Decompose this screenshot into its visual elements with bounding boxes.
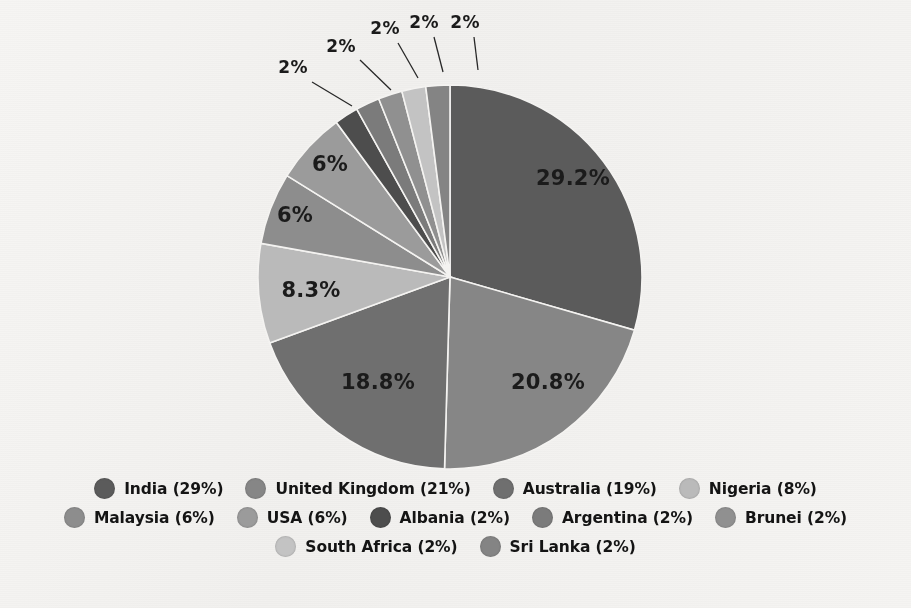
legend-swatch-icon [64,507,85,528]
legend-item: India (29%) [94,478,223,499]
legend-item: Nigeria (8%) [679,478,817,499]
legend-item-label: USA (6%) [267,509,348,527]
slice-label: 2% [450,12,479,32]
legend-item-label: Australia (19%) [523,480,657,498]
legend-swatch-icon [94,478,115,499]
legend-item-label: Argentina (2%) [562,509,693,527]
legend-swatch-icon [275,536,296,557]
legend-row: India (29%)United Kingdom (21%)Australia… [0,478,911,499]
legend-item-label: South Africa (2%) [305,538,457,556]
legend-swatch-icon [532,507,553,528]
slice-label: 2% [326,36,355,56]
legend-item: Australia (19%) [493,478,657,499]
legend-item: Albania (2%) [370,507,510,528]
legend-swatch-icon [679,478,700,499]
slice-label: 2% [278,57,307,77]
legend-swatch-icon [480,536,501,557]
slice-label: 18.8% [341,370,415,394]
legend-row: Malaysia (6%)USA (6%)Albania (2%)Argenti… [0,507,911,528]
slice-label: 6% [277,203,313,227]
legend-item-label: Nigeria (8%) [709,480,817,498]
slice-leader-line [434,37,443,72]
legend-item-label: Brunei (2%) [745,509,847,527]
pie-chart: 29.2%20.8%18.8%8.3%6%6%2%2%2%2%2% [0,0,911,470]
slice-label: 8.3% [281,278,340,302]
legend-item: Brunei (2%) [715,507,847,528]
chart-legend: India (29%)United Kingdom (21%)Australia… [0,470,911,608]
legend-swatch-icon [715,507,736,528]
slice-leader-line [398,43,418,78]
legend-item-label: Malaysia (6%) [94,509,215,527]
legend-swatch-icon [370,507,391,528]
slice-label: 20.8% [511,370,585,394]
legend-item: USA (6%) [237,507,348,528]
pie-chart-svg: 29.2%20.8%18.8%8.3%6%6%2%2%2%2%2% [0,0,911,470]
legend-item: Malaysia (6%) [64,507,215,528]
legend-row: South Africa (2%)Sri Lanka (2%) [0,536,911,557]
slice-label: 6% [312,152,348,176]
legend-item: United Kingdom (21%) [245,478,470,499]
legend-item: Argentina (2%) [532,507,693,528]
legend-item: South Africa (2%) [275,536,457,557]
slice-leader-line [474,37,478,70]
slice-label: 29.2% [536,166,610,190]
legend-swatch-icon [493,478,514,499]
legend-swatch-icon [245,478,266,499]
legend-swatch-icon [237,507,258,528]
slice-label: 2% [409,12,438,32]
legend-item-label: Sri Lanka (2%) [510,538,636,556]
legend-item-label: United Kingdom (21%) [275,480,470,498]
legend-item-label: India (29%) [124,480,223,498]
slice-leader-line [360,60,391,90]
slice-leader-line [312,82,352,106]
legend-item-label: Albania (2%) [400,509,510,527]
legend-item: Sri Lanka (2%) [480,536,636,557]
slice-label: 2% [370,18,399,38]
